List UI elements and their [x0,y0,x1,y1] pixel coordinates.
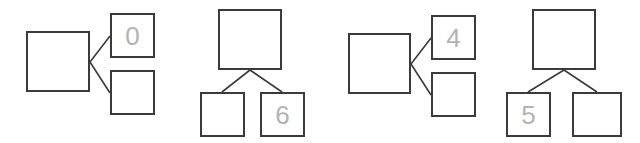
tree-diagram: 6 [160,0,320,143]
tree-diagram: 5 [480,0,640,143]
tree-edge [90,36,110,62]
tree-node-child-bottom[interactable] [110,70,155,115]
node-label: 0 [125,23,139,49]
tree-node-parent[interactable] [348,33,411,94]
tree-edge [222,70,250,92]
tree-node-parent[interactable] [26,31,90,92]
tree-edge [528,70,564,92]
tree-edge [90,62,110,93]
node-label: 5 [521,102,535,128]
tree-diagram: 0 [0,0,160,143]
node-label: 6 [275,102,289,128]
tree-edge [250,70,282,92]
tree-edge [411,38,431,64]
tree-edge [411,64,431,95]
tree-edge [564,70,597,92]
tree-node-child-bottom[interactable] [431,72,476,117]
tree-node-child-left[interactable]: 5 [506,92,551,137]
tree-node-parent[interactable] [218,9,282,70]
tree-node-child-top[interactable]: 0 [110,13,155,58]
node-label: 4 [446,25,460,51]
diagram-canvas: 0645 [0,0,640,143]
tree-node-child-right[interactable]: 6 [260,92,305,137]
tree-diagram: 4 [320,0,480,143]
tree-node-child-top[interactable]: 4 [431,15,476,60]
tree-node-child-right[interactable] [572,92,622,137]
tree-node-parent[interactable] [532,9,596,70]
tree-node-child-left[interactable] [200,92,245,137]
